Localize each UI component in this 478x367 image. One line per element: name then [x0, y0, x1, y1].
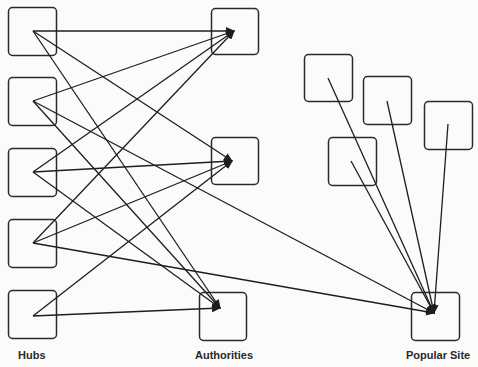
node-box-siteB — [364, 77, 412, 125]
edge-hub5-to-auth3 — [33, 308, 220, 316]
edge-siteB-to-popular — [387, 101, 434, 313]
hubs-label: Hubs — [18, 349, 46, 361]
edge-hub1-to-auth2 — [33, 31, 232, 161]
node-box-auth3 — [200, 293, 247, 341]
node-box-hub3 — [9, 149, 57, 197]
hubs-authorities-diagram — [0, 0, 478, 367]
edge-siteD-to-popular — [351, 161, 434, 313]
edge-hub4-to-auth1 — [33, 31, 234, 243]
edge-hub4-to-auth2 — [33, 161, 232, 243]
edge-hub3-to-auth2 — [33, 161, 232, 172]
edge-hub2-to-auth1 — [33, 31, 234, 101]
edges-layer — [33, 31, 448, 316]
edge-hub3-to-auth1 — [33, 31, 234, 172]
edge-hub4-to-popular — [33, 243, 434, 313]
popular-site-label: Popular Site — [406, 349, 470, 361]
edge-hub1-to-auth3 — [33, 31, 220, 308]
edge-hub2-to-popular — [33, 101, 434, 313]
node-box-auth2 — [212, 138, 259, 185]
node-box-siteD — [329, 138, 377, 186]
edge-siteC-to-popular — [434, 124, 448, 313]
node-box-hub5 — [9, 291, 57, 339]
edge-siteA-to-popular — [328, 78, 434, 313]
authorities-label: Authorities — [195, 349, 253, 361]
